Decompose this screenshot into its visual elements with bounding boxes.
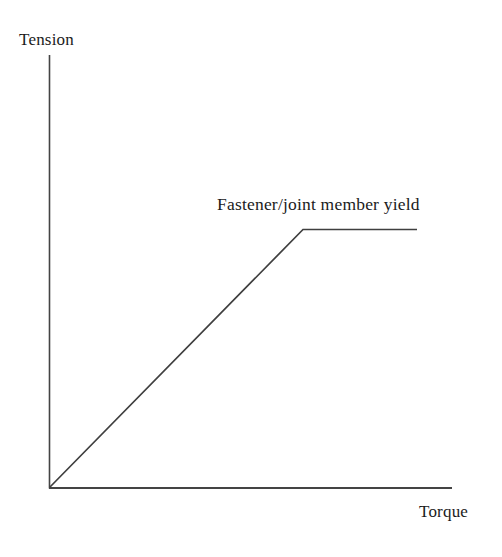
x-axis-label: Torque — [419, 503, 468, 520]
yield-annotation-label: Fastener/joint member yield — [217, 196, 420, 214]
tension-torque-curve — [50, 230, 418, 488]
y-axis-label: Tension — [19, 31, 74, 48]
torque-tension-plot — [0, 0, 502, 557]
chart-figure: Tension Fastener/joint member yield Torq… — [0, 0, 502, 557]
